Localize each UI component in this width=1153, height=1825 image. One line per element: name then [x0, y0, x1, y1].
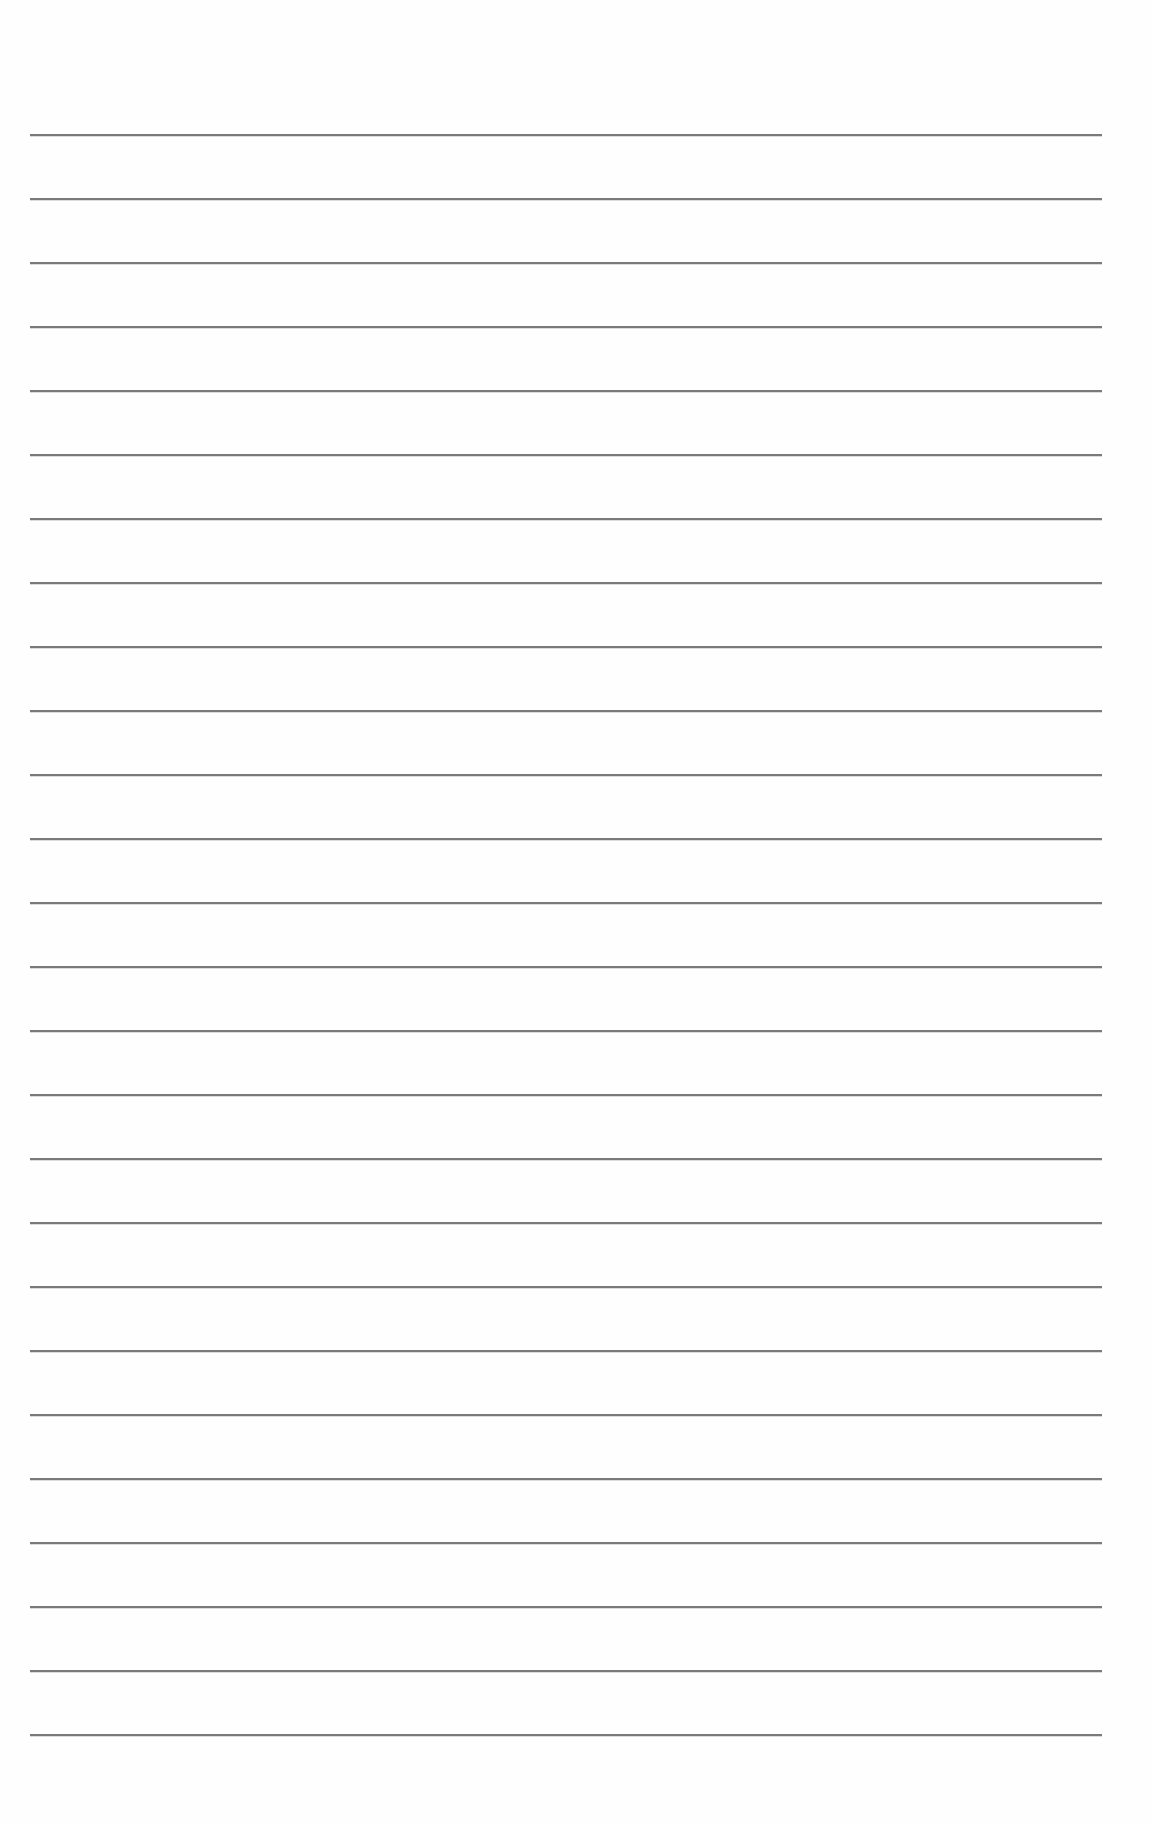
ruled-line — [30, 1286, 1102, 1288]
ruled-line — [30, 1542, 1102, 1544]
ruled-line — [30, 966, 1102, 968]
ruled-line — [30, 1606, 1102, 1608]
ruled-line — [30, 134, 1102, 136]
ruled-line — [30, 262, 1102, 264]
ruled-line — [30, 646, 1102, 648]
ruled-line — [30, 774, 1102, 776]
lined-paper-page — [0, 0, 1153, 1825]
ruled-line — [30, 1094, 1102, 1096]
ruled-line — [30, 582, 1102, 584]
ruled-line — [30, 1350, 1102, 1352]
ruled-line — [30, 1734, 1102, 1736]
ruled-line — [30, 1158, 1102, 1160]
ruled-line — [30, 1030, 1102, 1032]
ruled-line — [30, 838, 1102, 840]
ruled-line — [30, 454, 1102, 456]
ruled-line — [30, 1222, 1102, 1224]
ruled-line — [30, 518, 1102, 520]
ruled-line — [30, 710, 1102, 712]
ruled-line — [30, 198, 1102, 200]
ruled-line — [30, 390, 1102, 392]
ruled-line — [30, 326, 1102, 328]
ruled-line — [30, 902, 1102, 904]
ruled-line — [30, 1670, 1102, 1672]
ruled-line — [30, 1414, 1102, 1416]
ruled-line — [30, 1478, 1102, 1480]
